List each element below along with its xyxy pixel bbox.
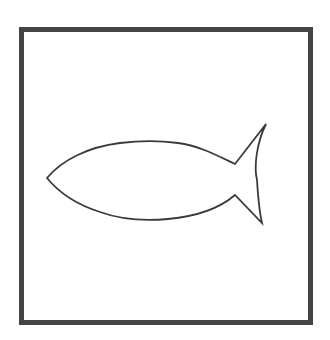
frame-border (22, 30, 311, 323)
fish-body-outline (47, 124, 266, 223)
fish-icon (47, 124, 266, 223)
drawing-canvas (0, 0, 330, 340)
